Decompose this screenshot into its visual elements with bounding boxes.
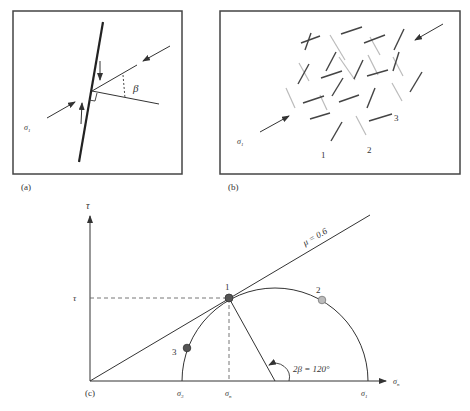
point-3 <box>183 344 191 352</box>
angle-arc <box>269 363 289 381</box>
fracture-label-2: 2 <box>367 145 372 155</box>
panel-c: τ σn μ = 0.6 2β = 120° 1 2 3 τ σ3 σn σ1 … <box>73 200 400 399</box>
figure: β σ1 (a) <box>0 0 470 411</box>
inactive-fractures <box>286 35 403 135</box>
beta-label: β <box>132 82 139 94</box>
panel-b-frame <box>220 11 460 174</box>
point-1-label: 1 <box>225 282 230 292</box>
panel-b: σ1 1 2 3 (b) <box>220 11 460 192</box>
panel-a: β σ1 (a) <box>13 11 182 192</box>
mohr-circle <box>182 288 368 381</box>
sigma1-arrow-right <box>415 24 443 40</box>
sigma1-label: σ1 <box>361 389 367 399</box>
beta-arc <box>123 75 125 98</box>
point-1 <box>225 294 233 302</box>
panel-a-label: (a) <box>21 182 31 192</box>
sigma1-arrow-right <box>143 46 170 61</box>
point-2 <box>318 296 326 304</box>
sigma1-arrow-left <box>260 116 289 132</box>
sigma1-label: σ1 <box>237 137 243 147</box>
sigma1-arrow-left <box>47 102 75 118</box>
fault-normal <box>92 91 159 104</box>
sigma-n-axis-label: σn <box>393 377 400 387</box>
fracture-label-1: 1 <box>321 150 326 160</box>
friction-label: μ = 0.6 <box>300 226 329 249</box>
radius-line <box>229 298 275 381</box>
shear-arrow-up <box>81 103 82 124</box>
sigma3-label: σ3 <box>177 389 184 399</box>
tau-value-label: τ <box>73 293 77 303</box>
angle-label: 2β = 120° <box>293 364 330 374</box>
panel-c-label: (c) <box>85 388 95 398</box>
fracture-label-3: 3 <box>394 113 399 123</box>
point-3-label: 3 <box>172 347 177 357</box>
point-2-label: 2 <box>316 285 321 295</box>
sigman-label: σn <box>225 389 232 399</box>
tau-axis-label: τ <box>86 200 90 211</box>
panel-b-label: (b) <box>228 182 239 192</box>
sigma1-label: σ1 <box>24 123 30 133</box>
sigma1-axis <box>92 65 137 91</box>
